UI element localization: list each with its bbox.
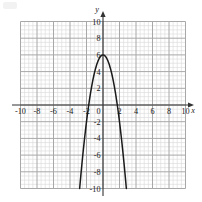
cartesian-graph: -10-8-6-4-20246810108642-2-4-6-8-10 yx: [0, 0, 202, 202]
svg-text:10: 10: [181, 107, 189, 116]
svg-text:4: 4: [134, 107, 138, 116]
svg-text:2: 2: [96, 84, 100, 93]
svg-text:8: 8: [167, 107, 171, 116]
svg-text:-10: -10: [90, 185, 101, 194]
svg-text:0: 0: [96, 107, 100, 116]
svg-text:-4: -4: [94, 134, 101, 143]
svg-text:-2: -2: [94, 118, 101, 127]
svg-text:x: x: [190, 106, 195, 115]
axes: [12, 11, 194, 196]
svg-text:4: 4: [96, 68, 100, 77]
svg-text:8: 8: [96, 34, 100, 43]
svg-text:-6: -6: [94, 151, 101, 160]
svg-text:-6: -6: [50, 107, 57, 116]
svg-text:-4: -4: [67, 107, 74, 116]
svg-text:-8: -8: [94, 168, 101, 177]
svg-text:6: 6: [150, 107, 154, 116]
svg-text:y: y: [94, 5, 99, 14]
svg-text:-10: -10: [15, 107, 26, 116]
svg-text:10: 10: [92, 18, 100, 27]
graph-screenshot: -10-8-6-4-20246810108642-2-4-6-8-10 yx: [0, 0, 202, 202]
svg-text:-8: -8: [34, 107, 41, 116]
